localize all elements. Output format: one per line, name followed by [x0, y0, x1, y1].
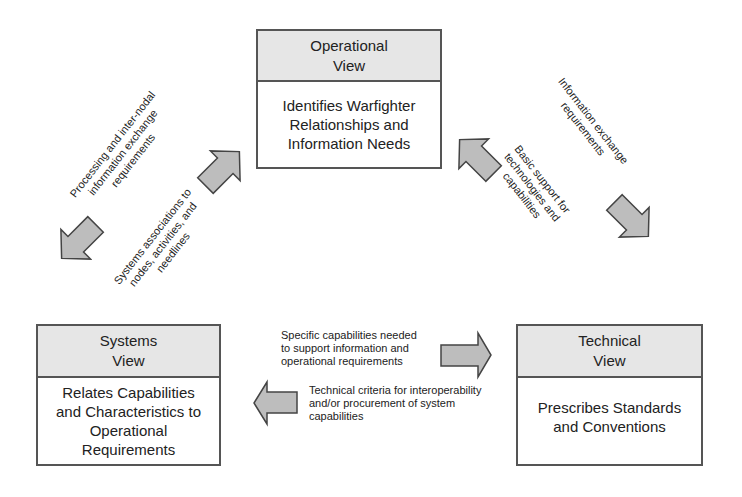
technical-view-desc-line2: and Conventions — [538, 417, 681, 436]
arrow-operational-to-systems-icon — [47, 210, 111, 274]
technical-view-desc-line1: Prescribes Standards — [538, 398, 681, 417]
label-line: Specific capabilities needed — [281, 329, 417, 342]
technical-view-title-line2: View — [578, 351, 641, 371]
operational-view-desc-line1: Identifies Warfighter — [283, 96, 416, 115]
systems-view-header: Systems View — [38, 326, 219, 378]
operational-view-desc-line3: Information Needs — [283, 134, 416, 153]
arrow-operational-to-technical-icon — [600, 188, 664, 252]
operational-view-box: Operational View Identifies Warfighter R… — [256, 29, 442, 169]
operational-view-body: Identifies Warfighter Relationships and … — [258, 82, 440, 167]
label-systems-to-technical: Specific capabilities needed to support … — [281, 329, 417, 368]
systems-view-desc-line3: Operational — [56, 421, 201, 440]
systems-view-body: Relates Capabilities and Characteristics… — [38, 378, 219, 464]
label-technical-to-systems: Technical criteria for interoperability … — [309, 384, 481, 423]
systems-view-desc-line1: Relates Capabilities — [56, 383, 201, 402]
label-line: and/or procurement of system — [309, 397, 481, 410]
operational-view-title-line2: View — [310, 56, 388, 76]
technical-view-box: Technical View Prescribes Standards and … — [516, 324, 703, 466]
label-line: to support information and — [281, 342, 417, 355]
operational-view-header: Operational View — [258, 31, 440, 82]
operational-view-desc-line2: Relationships and — [283, 115, 416, 134]
technical-view-header: Technical View — [518, 326, 701, 378]
label-line: capabilities — [309, 410, 481, 423]
systems-view-desc-line4: Requirements — [56, 440, 201, 459]
technical-view-body: Prescribes Standards and Conventions — [518, 378, 701, 464]
systems-view-title-line1: Systems — [100, 331, 158, 351]
arrow-systems-to-technical-icon — [441, 333, 491, 377]
label-line: operational requirements — [281, 355, 417, 368]
arrow-technical-to-systems-icon — [254, 382, 297, 424]
systems-view-box: Systems View Relates Capabilities and Ch… — [36, 324, 221, 466]
technical-view-title-line1: Technical — [578, 331, 641, 351]
systems-view-desc-line2: and Characteristics to — [56, 402, 201, 421]
systems-view-title-line2: View — [100, 351, 158, 371]
label-line: Technical criteria for interoperability — [309, 384, 481, 397]
operational-view-title-line1: Operational — [310, 36, 388, 56]
